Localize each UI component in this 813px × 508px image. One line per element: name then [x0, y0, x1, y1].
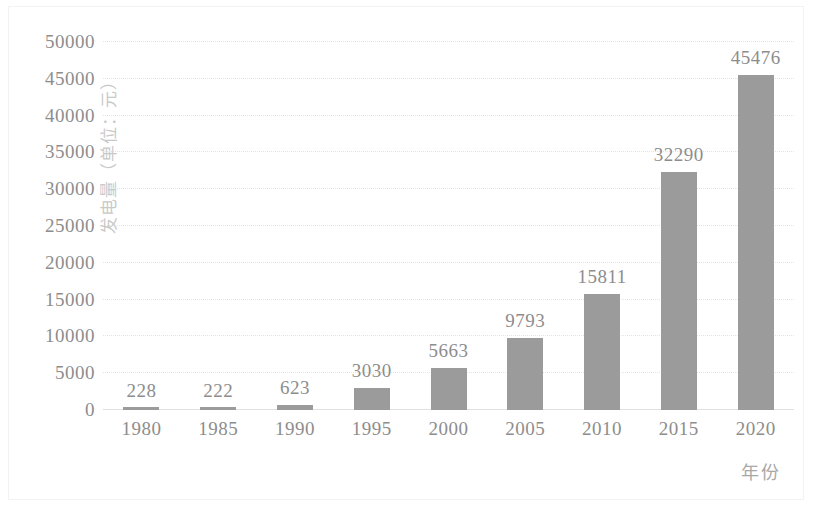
bar-slot: 3030	[333, 42, 410, 410]
bar[interactable]	[584, 294, 620, 410]
bar-value-label: 228	[103, 380, 180, 402]
bar-slot: 228	[103, 42, 180, 410]
bar-value-label: 32290	[640, 144, 717, 166]
bar-value-label: 5663	[410, 340, 487, 362]
y-axis-tick-label: 45000	[25, 68, 95, 90]
bar-chart-figure: 发电量（单位：元） 050001000015000200002500030000…	[0, 0, 813, 508]
y-axis-tick-label: 35000	[25, 141, 95, 163]
y-axis-tick-labels: 0500010000150002000025000300003500040000…	[20, 42, 95, 410]
bar-series: 228222623303056639793158113229045476	[103, 42, 794, 410]
y-axis-tick-label: 0	[25, 399, 95, 421]
x-axis-tick-label: 1995	[333, 418, 410, 440]
y-axis-tick-label: 15000	[25, 289, 95, 311]
y-axis-tick-label: 50000	[25, 31, 95, 53]
x-axis-tick-labels: 198019851990199520002005201020152020	[103, 418, 794, 440]
y-axis-tick-label: 5000	[25, 362, 95, 384]
bar-value-label: 15811	[564, 266, 641, 288]
bar[interactable]	[123, 407, 159, 410]
x-axis-tick-label: 2010	[564, 418, 641, 440]
bar-value-label: 623	[257, 377, 334, 399]
x-axis-tick-label: 1985	[180, 418, 257, 440]
y-axis-tick-label: 30000	[25, 178, 95, 200]
bar-slot: 15811	[564, 42, 641, 410]
bar[interactable]	[738, 75, 774, 410]
x-axis-tick-label: 2015	[640, 418, 717, 440]
x-axis-title: 年份	[741, 458, 781, 484]
x-axis-tick-label: 1980	[103, 418, 180, 440]
x-axis-tick-label: 2020	[717, 418, 794, 440]
bar[interactable]	[507, 338, 543, 410]
bar-slot: 623	[257, 42, 334, 410]
bar-slot: 5663	[410, 42, 487, 410]
bar-value-label: 222	[180, 380, 257, 402]
bar-slot: 32290	[640, 42, 717, 410]
y-axis-tick-label: 20000	[25, 252, 95, 274]
y-axis-tick-label: 10000	[25, 325, 95, 347]
bar-slot: 222	[180, 42, 257, 410]
bar-slot: 9793	[487, 42, 564, 410]
bar[interactable]	[431, 368, 467, 410]
x-axis-tick-label: 2000	[410, 418, 487, 440]
bar-slot: 45476	[717, 42, 794, 410]
bar[interactable]	[661, 172, 697, 410]
bar-value-label: 9793	[487, 310, 564, 332]
x-axis-tick-label: 2005	[487, 418, 564, 440]
bar[interactable]	[354, 388, 390, 410]
x-axis-tick-label: 1990	[257, 418, 334, 440]
bar[interactable]	[277, 405, 313, 410]
bar-value-label: 3030	[333, 360, 410, 382]
bar[interactable]	[200, 407, 236, 410]
y-axis-tick-label: 25000	[25, 215, 95, 237]
bar-value-label: 45476	[717, 47, 794, 69]
plot-area: 228222623303056639793158113229045476	[103, 42, 794, 410]
y-axis-tick-label: 40000	[25, 105, 95, 127]
